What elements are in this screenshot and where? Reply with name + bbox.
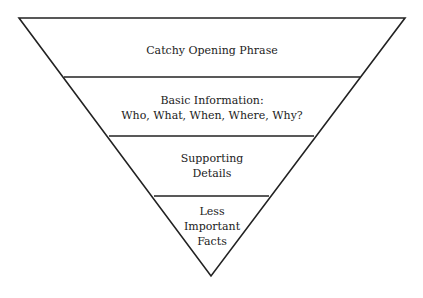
level-3-label: Supporting Details: [181, 151, 244, 181]
level-4-label: Less Important Facts: [184, 204, 240, 249]
level-1-line-1: Catchy Opening Phrase: [146, 43, 278, 58]
level-1-label: Catchy Opening Phrase: [146, 43, 278, 58]
level-4-line-1: Less: [184, 204, 240, 219]
level-3-line-2: Details: [181, 166, 244, 181]
level-4-line-3: Facts: [184, 234, 240, 249]
level-2-label: Basic Information: Who, What, When, Wher…: [121, 93, 303, 123]
level-4-line-2: Important: [184, 219, 240, 234]
level-3-line-1: Supporting: [181, 151, 244, 166]
level-2-line-1: Basic Information:: [121, 93, 303, 108]
level-2-line-2: Who, What, When, Where, Why?: [121, 108, 303, 123]
